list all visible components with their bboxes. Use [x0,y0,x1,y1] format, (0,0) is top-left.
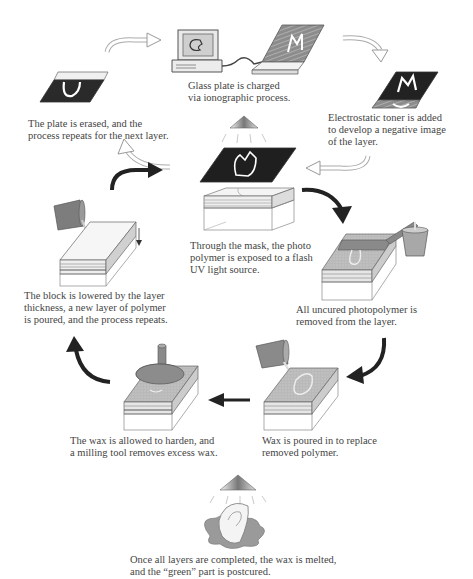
polymer-block-icon [124,364,198,430]
glass-plate-icon [252,25,324,74]
uv-lamp-icon [222,116,266,143]
hollow-arrow-icon [343,38,388,62]
uv-lamp-icon [210,475,266,504]
polymer-block-icon [60,222,142,286]
step-caption-wax: Wax is poured in to replace removed poly… [262,435,377,459]
black-arrow-icon [208,393,250,407]
polymer-block-icon [322,234,396,300]
erased-plate-icon [40,72,108,102]
step-caption-lower: The block is lowered by the layer thickn… [24,290,168,326]
polymer-block-icon [264,368,338,430]
toner-plate-icon [372,72,438,108]
step-caption-mill: The wax is allowed to harden, and a mill… [70,435,218,459]
black-arrow-icon [66,336,110,382]
hollow-arrow-icon [118,139,170,167]
black-arrow-icon [112,162,163,190]
computer-icon [172,30,262,72]
step-caption-remove: All uncured photopolymer is removed from… [296,304,417,328]
step-caption-erase: The plate is erased, and the process rep… [28,118,169,142]
step-caption-postcure: Once all layers are completed, the wax i… [130,554,336,578]
black-arrow-icon [302,190,352,224]
step-caption-expose: Through the mask, the photo polymer is e… [190,240,313,276]
step-caption-toner: Electrostatic toner is added to develop … [328,112,446,148]
step-caption-charge: Glass plate is charged via ionographic p… [188,80,290,104]
hollow-arrow-icon [306,156,368,175]
photomask-icon [200,148,296,182]
hollow-arrow-icon [107,33,161,52]
polymer-block-icon [204,188,294,230]
black-arrow-icon [346,338,384,384]
